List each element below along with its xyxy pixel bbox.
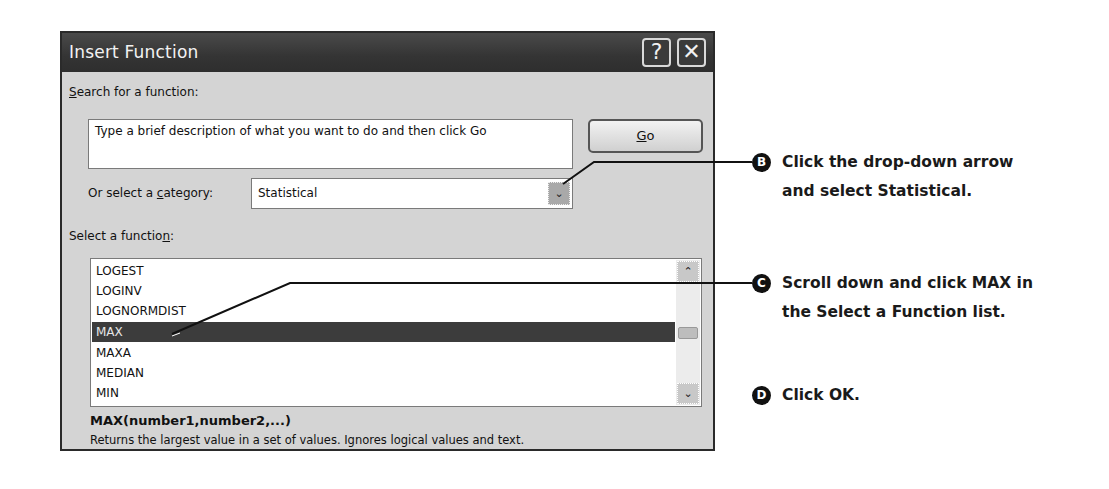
- go-button[interactable]: Go: [588, 119, 703, 153]
- list-item[interactable]: MIN: [92, 383, 675, 403]
- callout-b-line2: and select Statistical.: [782, 177, 972, 206]
- category-select[interactable]: Statistical ⌄: [251, 178, 573, 209]
- function-list[interactable]: LOGEST LOGINV LOGNORMDIST MAX MAXA MEDIA…: [90, 258, 702, 407]
- list-item[interactable]: MAXA: [92, 343, 675, 363]
- step-badge-d: D: [752, 386, 771, 405]
- function-label-post: :: [170, 229, 174, 243]
- go-label-accel: G: [636, 128, 646, 143]
- scroll-up-icon[interactable]: ⌃: [677, 261, 699, 282]
- search-label: Search for a function:: [69, 85, 199, 99]
- callout-c-line1: Scroll down and click MAX in: [782, 269, 1033, 298]
- list-item[interactable]: LOGNORMDIST: [92, 301, 675, 321]
- function-label: Select a function:: [69, 229, 174, 243]
- callout-c-line2: the Select a Function list.: [782, 298, 1006, 327]
- search-input[interactable]: Type a brief description of what you wan…: [88, 119, 573, 169]
- search-label-accel: S: [69, 85, 77, 99]
- category-value: Statistical: [258, 186, 317, 200]
- title-bar: Insert Function ? ✕: [62, 33, 713, 72]
- search-label-text: earch for a function:: [77, 85, 199, 99]
- list-item[interactable]: LOGINV: [92, 281, 675, 301]
- function-syntax: MAX(number1,number2,...): [90, 413, 291, 428]
- list-item[interactable]: LOGEST: [92, 261, 675, 281]
- scroll-down-icon[interactable]: ⌄: [677, 383, 699, 404]
- chevron-down-icon[interactable]: ⌄: [548, 182, 570, 205]
- list-scrollbar[interactable]: ⌃ ⌄: [676, 260, 700, 405]
- scroll-thumb[interactable]: [678, 327, 698, 339]
- function-label-accel: n: [162, 229, 170, 243]
- step-badge-c: C: [752, 274, 771, 293]
- callout-d-line1: Click OK.: [782, 381, 860, 410]
- function-label-pre: Select a functio: [69, 229, 162, 243]
- close-button[interactable]: ✕: [677, 38, 706, 67]
- category-label: Or select a category:: [88, 186, 213, 200]
- callout-b-line1: Click the drop-down arrow: [782, 148, 1013, 177]
- step-badge-b: B: [752, 153, 771, 172]
- dialog-title: Insert Function: [69, 42, 198, 62]
- list-item-selected[interactable]: MAX: [92, 322, 675, 342]
- go-label-text: o: [647, 128, 655, 143]
- category-label-post: ategory:: [163, 186, 213, 200]
- category-label-pre: Or select a: [88, 186, 157, 200]
- help-button[interactable]: ?: [642, 38, 671, 67]
- list-item[interactable]: MEDIAN: [92, 363, 675, 383]
- insert-function-dialog: Insert Function ? ✕ Search for a functio…: [60, 31, 715, 451]
- function-description: Returns the largest value in a set of va…: [90, 433, 524, 447]
